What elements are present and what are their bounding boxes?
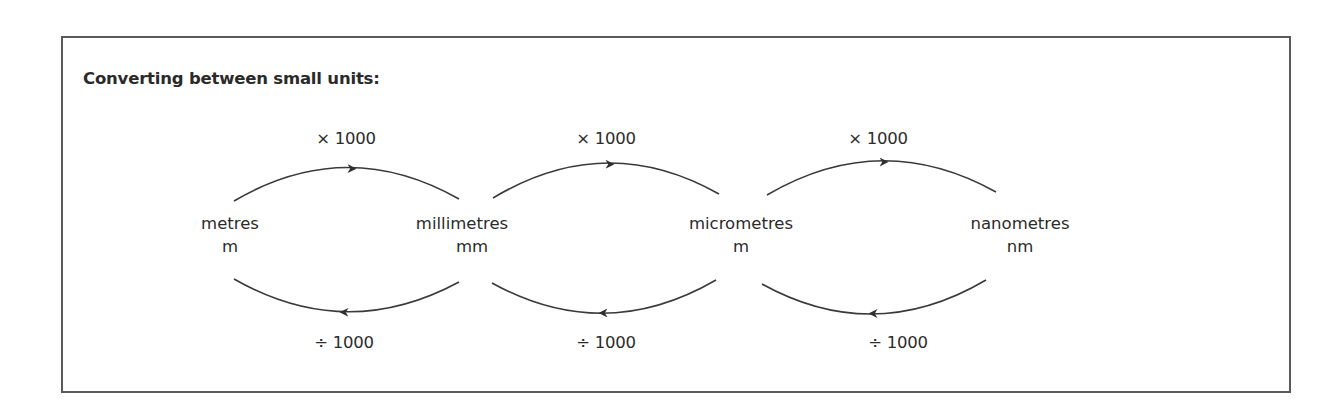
arrow-divide-micrometres-to-millimetres bbox=[492, 280, 716, 313]
unit-name: micrometres bbox=[689, 212, 793, 235]
multiply-label-3: × 1000 bbox=[848, 129, 907, 148]
arrow-divide-millimetres-to-metres bbox=[234, 279, 459, 313]
arrow-multiply-millimetres-to-micrometres bbox=[493, 163, 719, 198]
arrow-multiply-metres-to-millimetres bbox=[234, 167, 459, 201]
multiply-label-2: × 1000 bbox=[576, 129, 635, 148]
unit-symbol: nm bbox=[971, 235, 1070, 258]
divide-label-2: ÷ 1000 bbox=[576, 333, 635, 352]
arrow-multiply-micrometres-to-nanometres bbox=[767, 161, 996, 195]
unit-micrometres: micrometres m bbox=[689, 212, 793, 258]
unit-name: nanometres bbox=[971, 212, 1070, 235]
conversion-arrows bbox=[0, 0, 1327, 412]
unit-name: metres bbox=[201, 212, 259, 235]
unit-symbol: m bbox=[689, 235, 793, 258]
arrow-divide-nanometres-to-micrometres bbox=[762, 280, 986, 314]
unit-nanometres: nanometres nm bbox=[971, 212, 1070, 258]
multiply-label-1: × 1000 bbox=[316, 129, 375, 148]
divide-label-1: ÷ 1000 bbox=[314, 333, 373, 352]
unit-name: millimetres bbox=[416, 212, 508, 235]
unit-millimetres: millimetres mm bbox=[416, 212, 508, 258]
unit-symbol: m bbox=[201, 235, 259, 258]
divide-label-3: ÷ 1000 bbox=[868, 333, 927, 352]
unit-symbol: mm bbox=[416, 235, 508, 258]
unit-metres: metres m bbox=[201, 212, 259, 258]
